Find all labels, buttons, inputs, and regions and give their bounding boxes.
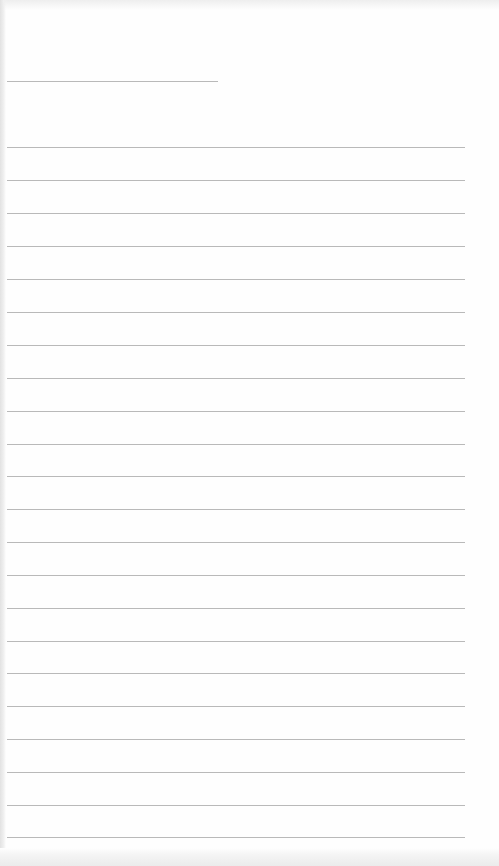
- top-scan-edge: [0, 0, 499, 10]
- ruled-line: [7, 213, 465, 214]
- ruled-line: [7, 739, 465, 740]
- ruled-line: [7, 279, 465, 280]
- header-rule: [7, 81, 218, 82]
- ruled-line: [7, 542, 465, 543]
- bottom-scan-edge: [0, 848, 499, 866]
- ruled-line: [7, 509, 465, 510]
- ruled-line: [7, 673, 465, 674]
- ruled-line: [7, 147, 465, 148]
- ruled-line: [7, 641, 465, 642]
- ruled-line: [7, 180, 465, 181]
- ruled-line: [7, 444, 465, 445]
- ruled-line: [7, 772, 465, 773]
- left-scan-edge: [0, 0, 6, 866]
- ruled-line: [7, 476, 465, 477]
- ruled-line: [7, 246, 465, 247]
- ruled-line: [7, 312, 465, 313]
- ruled-line: [7, 345, 465, 346]
- ruled-page: [0, 0, 499, 866]
- ruled-line: [7, 805, 465, 806]
- ruled-line: [7, 411, 465, 412]
- ruled-line: [7, 378, 465, 379]
- ruled-line: [7, 575, 465, 576]
- ruled-line: [7, 706, 465, 707]
- ruled-line: [7, 837, 465, 838]
- ruled-line: [7, 608, 465, 609]
